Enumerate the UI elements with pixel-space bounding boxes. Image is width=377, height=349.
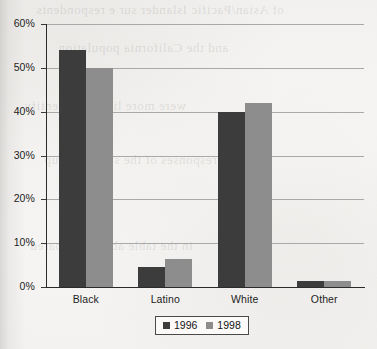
y-axis-line xyxy=(46,24,47,288)
legend-swatch-icon xyxy=(206,322,213,329)
x-axis-label: Black xyxy=(46,293,126,305)
legend-swatch-icon xyxy=(163,322,170,329)
legend-entry: 1996 xyxy=(163,319,197,331)
x-axis-label: Latino xyxy=(126,293,206,305)
x-axis-label: White xyxy=(205,293,285,305)
y-tick-label: 40% xyxy=(0,105,35,117)
legend-entry: 1998 xyxy=(206,319,240,331)
chart-legend: 19961998 xyxy=(155,316,249,335)
bar-chart: 0%10%20%30%40%50%60% BlackLatinoWhiteOth… xyxy=(0,0,377,349)
x-axis-line xyxy=(46,287,365,288)
bar xyxy=(245,103,272,287)
y-tick-label: 60% xyxy=(0,17,35,29)
gridline xyxy=(46,24,364,25)
x-axis-label: Other xyxy=(285,293,365,305)
bar xyxy=(59,50,86,287)
bar xyxy=(86,68,113,287)
legend-label: 1996 xyxy=(174,319,197,331)
bar xyxy=(218,112,245,287)
y-tick-label: 50% xyxy=(0,61,35,73)
bar xyxy=(165,259,192,287)
y-tick-label: 10% xyxy=(0,236,35,248)
y-tick-label: 30% xyxy=(0,149,35,161)
bar xyxy=(138,267,165,287)
chart-page: of Asian/Pacific Islander sur e responde… xyxy=(0,0,377,349)
y-tick-label: 20% xyxy=(0,192,35,204)
y-tick-label: 0% xyxy=(0,280,35,292)
legend-label: 1998 xyxy=(217,319,240,331)
